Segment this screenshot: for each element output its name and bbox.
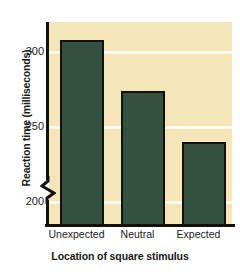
- plot-area: [49, 22, 232, 224]
- y-axis-break-icon: [40, 176, 56, 204]
- y-axis-tick-label: 250: [14, 121, 44, 132]
- x-axis-tick-labels: UnexpectedNeutralExpected: [46, 228, 236, 246]
- bar-series: [49, 22, 232, 224]
- x-axis-line: [45, 224, 235, 227]
- bar: [182, 142, 226, 224]
- y-axis-line-upper: [46, 22, 49, 180]
- x-axis-tick-label: Expected: [164, 228, 233, 240]
- x-axis-tick-label: Unexpected: [42, 228, 111, 240]
- bar: [121, 91, 165, 224]
- y-axis-line-lower: [46, 200, 49, 227]
- bar-chart-figure: Reaction time (milliseconds) 300250200 U…: [0, 0, 240, 274]
- x-axis-tick-label: Neutral: [103, 228, 172, 240]
- y-axis-tick-label: 300: [14, 46, 44, 57]
- x-axis-title: Location of square stimulus: [0, 250, 240, 262]
- bar: [60, 40, 104, 224]
